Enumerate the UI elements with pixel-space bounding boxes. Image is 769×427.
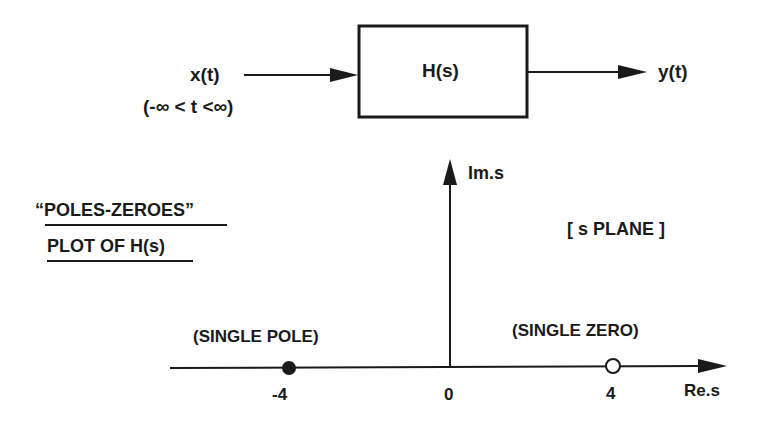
imag-axis-arrowhead-icon bbox=[443, 159, 457, 185]
plot-title-line1: “POLES-ZEROES” bbox=[35, 200, 194, 221]
output-arrowhead-icon bbox=[618, 65, 647, 79]
input-label: x(t) bbox=[190, 64, 220, 86]
pole-marker-icon bbox=[282, 361, 296, 375]
zero-annotation: (SINGLE ZERO) bbox=[512, 321, 639, 341]
zero-marker-icon bbox=[606, 359, 620, 373]
real-axis-arrowhead-icon bbox=[698, 359, 727, 373]
plane-label: [ s PLANE ] bbox=[567, 219, 665, 240]
tick-0: 0 bbox=[444, 385, 453, 405]
tick-neg4: -4 bbox=[272, 385, 287, 405]
real-axis-label: Re.s bbox=[684, 381, 720, 401]
imag-axis-label: Im.s bbox=[468, 163, 504, 184]
output-label: y(t) bbox=[658, 61, 688, 83]
pole-annotation: (SINGLE POLE) bbox=[193, 327, 319, 347]
tick-4: 4 bbox=[606, 384, 615, 404]
plot-title-line2: PLOT OF H(s) bbox=[47, 236, 165, 257]
input-arrowhead-icon bbox=[330, 68, 358, 82]
input-range-label: (-∞ < t <∞) bbox=[143, 96, 233, 118]
system-label: H(s) bbox=[422, 60, 459, 82]
